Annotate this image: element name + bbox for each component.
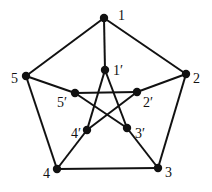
vertex-label-2: 2	[193, 71, 200, 86]
graph-labels: 123451′2′3′4′5′	[11, 8, 200, 181]
vertex-3	[154, 164, 162, 172]
edge-3p-5p	[75, 93, 127, 128]
vertex-4	[53, 165, 61, 173]
edge-5-1	[26, 18, 104, 76]
vertex-label-1: 1	[118, 8, 125, 23]
edge-2-2p	[137, 74, 186, 92]
vertex-5p	[71, 89, 79, 97]
vertex-label-3: 3	[165, 165, 172, 180]
petersen-graph-diagram: 123451′2′3′4′5′	[0, 0, 212, 192]
edge-2p-4p	[87, 92, 137, 130]
vertex-5	[22, 72, 30, 80]
vertex-1	[100, 14, 108, 22]
vertex-label-2p: 2′	[143, 95, 153, 110]
graph-edges	[26, 18, 186, 169]
edge-2-3	[158, 74, 186, 168]
vertex-2p	[133, 88, 141, 96]
vertex-2	[182, 70, 190, 78]
vertex-label-5p: 5′	[57, 95, 67, 110]
vertex-label-4: 4	[43, 166, 50, 181]
edge-2p-5p	[75, 92, 137, 93]
edge-1p-4p	[87, 70, 105, 130]
vertex-label-4p: 4′	[71, 126, 81, 141]
edge-3-4	[57, 168, 158, 169]
vertex-3p	[123, 124, 131, 132]
vertex-label-3p: 3′	[135, 126, 145, 141]
edge-1-1p	[104, 18, 105, 70]
edge-5-5p	[26, 76, 75, 93]
edge-1p-3p	[105, 70, 127, 128]
vertex-1p	[101, 66, 109, 74]
vertex-label-1p: 1′	[113, 63, 123, 78]
edge-4-5	[26, 76, 57, 169]
vertex-4p	[83, 126, 91, 134]
vertex-label-5: 5	[11, 71, 18, 86]
